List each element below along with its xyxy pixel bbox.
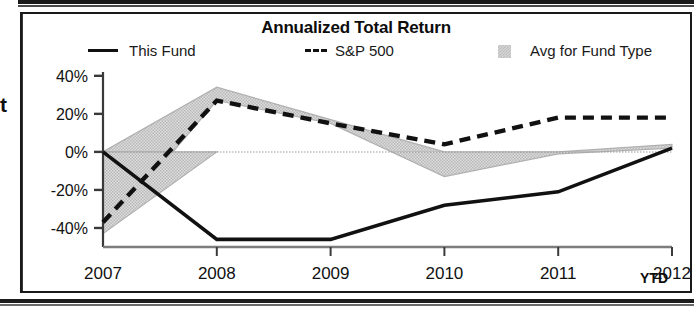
x-tick-label: 2010 xyxy=(425,264,463,283)
y-axis-ticks xyxy=(94,76,103,228)
series-band-avg-fund-type xyxy=(103,87,672,233)
scan-top-rule xyxy=(18,0,694,4)
scan-top-rule-2 xyxy=(18,5,694,7)
scan-bottom-rule xyxy=(0,299,694,303)
x-tick-label: 2008 xyxy=(198,264,236,283)
x-axis-ytd-label: YTD xyxy=(640,270,688,286)
x-tick-label: 2011 xyxy=(540,264,577,283)
y-tick-label: 40% xyxy=(56,68,88,85)
x-axis-labels: 200720082009201020112012 xyxy=(84,264,691,283)
x-tick-label: 2007 xyxy=(84,264,122,283)
y-tick-label: -40% xyxy=(51,220,88,237)
plot-area: 40%20%0%-20%-40% 20072008200920102011201… xyxy=(22,14,694,295)
y-tick-label: 20% xyxy=(56,106,88,123)
scan-bottom-rule-2 xyxy=(0,304,694,306)
y-tick-label: -20% xyxy=(51,182,88,199)
clipped-text-fragment: t xyxy=(0,92,14,118)
chart-container: Annualized Total Return This Fund S&P 50… xyxy=(20,12,692,293)
y-tick-label: 0% xyxy=(65,144,88,161)
x-tick-label: 2009 xyxy=(312,264,350,283)
y-axis-labels: 40%20%0%-20%-40% xyxy=(51,68,88,237)
x-axis-ticks xyxy=(217,247,672,256)
